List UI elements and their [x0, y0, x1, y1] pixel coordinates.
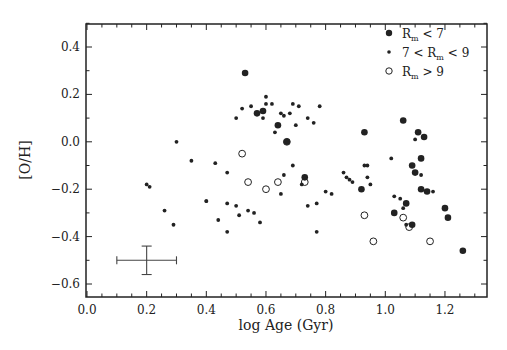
- data-point: [351, 180, 355, 184]
- data-point: [315, 230, 319, 234]
- data-point: [273, 130, 277, 134]
- data-point: [389, 156, 393, 160]
- data-point: [254, 110, 261, 117]
- legend-label-2: Rm > 9: [402, 65, 444, 81]
- data-point: [421, 134, 428, 141]
- y-tick-label: −0.6: [51, 277, 80, 291]
- data-point: [318, 104, 322, 108]
- data-point: [413, 138, 417, 142]
- data-point: [342, 171, 346, 175]
- data-point: [361, 212, 368, 219]
- data-point: [246, 209, 250, 213]
- data-point: [249, 104, 253, 108]
- data-point: [204, 199, 208, 203]
- error-bar: [117, 246, 177, 274]
- data-point: [275, 179, 282, 186]
- y-tick-label: −0.2: [51, 182, 80, 196]
- data-point: [260, 108, 267, 115]
- data-point: [392, 194, 396, 198]
- data-point: [242, 70, 249, 77]
- data-point: [282, 173, 286, 177]
- data-point: [358, 186, 365, 193]
- data-point: [252, 211, 256, 215]
- data-point: [237, 213, 241, 217]
- legend-marker-small: [387, 50, 391, 54]
- data-point: [366, 164, 370, 168]
- data-point: [312, 121, 316, 125]
- data-point: [175, 140, 179, 144]
- data-points: [145, 70, 466, 254]
- data-point: [234, 204, 238, 208]
- data-point: [145, 183, 149, 187]
- data-point: [264, 102, 268, 106]
- data-point: [279, 111, 283, 115]
- y-tick-label: 0.4: [61, 40, 80, 54]
- x-tick-label: 1.0: [376, 303, 395, 317]
- data-point: [412, 169, 419, 176]
- data-point: [398, 197, 402, 201]
- data-point: [297, 104, 301, 108]
- data-point: [460, 248, 467, 255]
- data-point: [306, 204, 310, 208]
- legend-label-0: Rm < 7: [402, 27, 444, 43]
- data-point: [234, 116, 238, 120]
- data-point: [270, 102, 274, 106]
- data-point: [279, 192, 283, 196]
- x-tick-label: 0.2: [137, 303, 156, 317]
- data-point: [190, 159, 194, 163]
- data-point: [245, 179, 252, 186]
- data-point: [324, 190, 328, 194]
- legend-label-1: 7 < Rm < 9: [402, 46, 469, 62]
- data-point: [163, 209, 167, 213]
- data-point: [409, 162, 416, 169]
- data-point: [391, 210, 398, 217]
- data-point: [431, 190, 435, 194]
- data-point: [306, 116, 310, 120]
- y-tick-label: 0.2: [61, 87, 80, 101]
- legend-marker-large: [386, 30, 392, 36]
- data-point: [366, 175, 370, 179]
- x-tick-label: 1.2: [435, 303, 454, 317]
- data-point: [400, 214, 407, 221]
- data-point: [172, 223, 176, 227]
- data-point: [445, 214, 452, 221]
- data-point: [216, 218, 220, 222]
- data-point: [419, 173, 423, 177]
- data-point: [263, 186, 270, 193]
- scatter-chart: 0.00.20.40.60.81.01.2 0.40.20.0−0.2−0.4−…: [0, 0, 507, 350]
- x-axis-label: log Age (Gyr): [239, 317, 334, 333]
- data-point: [225, 202, 229, 206]
- data-point: [282, 114, 286, 118]
- data-point: [345, 175, 349, 179]
- data-point: [275, 122, 282, 129]
- legend-marker-open: [386, 68, 392, 74]
- data-point: [418, 186, 425, 193]
- data-point: [315, 202, 319, 206]
- x-tick-label: 0.4: [197, 303, 216, 317]
- y-tick-label: −0.4: [51, 230, 81, 244]
- y-axis-label: [O/H]: [17, 140, 33, 179]
- data-point: [148, 185, 152, 189]
- data-point: [368, 183, 372, 187]
- data-point: [239, 150, 246, 157]
- data-point: [403, 200, 410, 207]
- data-point: [348, 178, 352, 182]
- data-point: [442, 205, 449, 212]
- data-point: [415, 129, 422, 136]
- data-point: [291, 164, 295, 168]
- y-tick-label: 0.0: [61, 135, 80, 149]
- data-point: [418, 155, 425, 162]
- data-point: [264, 95, 268, 99]
- data-point: [330, 192, 334, 196]
- data-point: [294, 123, 298, 127]
- data-point: [225, 230, 229, 234]
- data-point: [291, 102, 295, 106]
- x-tick-label: 0.6: [256, 303, 275, 317]
- x-tick-label: 0.0: [77, 303, 96, 317]
- data-point: [361, 129, 368, 136]
- legend: Rm < 7 7 < Rm < 9 Rm > 9: [386, 27, 469, 81]
- data-point: [400, 117, 407, 124]
- data-point: [370, 238, 377, 245]
- data-point: [288, 111, 292, 115]
- data-point: [261, 116, 265, 120]
